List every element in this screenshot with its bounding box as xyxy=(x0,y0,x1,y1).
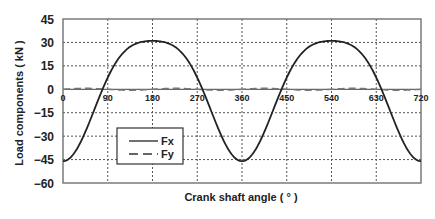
chart: 4530150−15−30−45−60 09018027036045054063… xyxy=(0,0,435,219)
y-tick-label: −15 xyxy=(34,106,55,120)
x-axis-title: Crank shaft angle ( ° ) xyxy=(184,191,298,203)
y-tick-label: 15 xyxy=(41,59,55,73)
x-tick-label: 540 xyxy=(324,93,339,103)
x-tick-label: 630 xyxy=(369,93,384,103)
y-axis-tick-labels: 4530150−15−30−45−60 xyxy=(34,13,55,191)
legend-fx-label: Fx xyxy=(161,135,175,147)
x-tick-label: 450 xyxy=(279,93,294,103)
y-tick-label: 30 xyxy=(41,36,55,50)
y-tick-label: −45 xyxy=(34,153,55,167)
x-tick-label: 180 xyxy=(145,93,160,103)
legend-fy-label: Fy xyxy=(161,148,175,160)
x-tick-label: 360 xyxy=(234,93,249,103)
x-tick-label: 0 xyxy=(60,93,65,103)
x-tick-label: 270 xyxy=(190,93,205,103)
y-axis-title: Load components ( kN ) xyxy=(13,40,25,166)
legend: Fx Fy xyxy=(117,128,183,164)
y-tick-label: −30 xyxy=(34,130,55,144)
y-tick-label: −60 xyxy=(34,177,55,191)
x-axis-tick-labels: 090180270360450540630720 xyxy=(60,93,428,103)
y-tick-label: 0 xyxy=(47,83,54,97)
x-tick-label: 90 xyxy=(103,93,113,103)
y-tick-label: 45 xyxy=(41,13,55,27)
x-tick-label: 720 xyxy=(413,93,428,103)
